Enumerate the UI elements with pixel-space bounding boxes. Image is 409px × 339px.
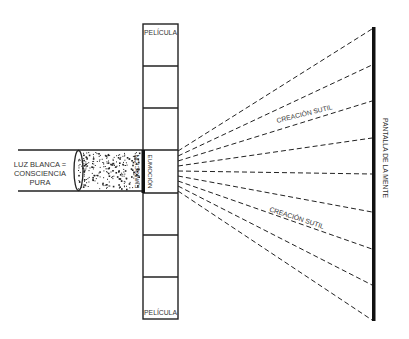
- upper-ray-label: CREACIÓN SUTIL: [276, 102, 333, 124]
- ray: [178, 186, 372, 285]
- film-top-label: PELÍCULA: [144, 28, 177, 36]
- emotion-label-outer: EUMOCIÓN: [133, 154, 140, 188]
- source-label-line-3: PURA: [30, 178, 51, 187]
- speckled-light-particles: [78, 152, 141, 190]
- emotion-label-inner: EUMOCIÓN: [147, 154, 154, 188]
- projection-diagram: LUZ BLANCA = CONSCIENCIA PURA PELÍCULA P…: [0, 0, 409, 339]
- lower-ray-label: CREACIÓN SUTIL: [269, 205, 326, 230]
- source-label-line-1: LUZ BLANCA =: [14, 160, 67, 169]
- ray: [178, 181, 372, 249]
- projection-rays: [178, 29, 372, 320]
- ray: [178, 171, 372, 174]
- ray: [178, 29, 372, 151]
- film-bottom-label: PELÍCULA: [144, 308, 177, 316]
- screen-label: PANTALLA DE LA MENTE: [382, 118, 389, 199]
- source-label-line-2: CONSCIENCIA: [14, 169, 66, 178]
- active-frame-edge: [142, 150, 146, 193]
- mind-screen: [372, 27, 376, 321]
